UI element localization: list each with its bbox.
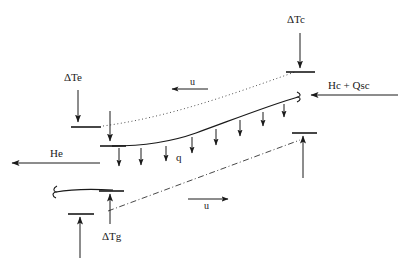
diagram-drawing (0, 0, 406, 269)
upper-dotted-curve (103, 72, 295, 126)
label-delta-tc: ΔTc (287, 14, 305, 25)
main-curve-end-bracket (297, 92, 300, 102)
label-u-upper: u (190, 77, 195, 87)
bottom-curve-start-bracket (53, 186, 57, 198)
main-solid-curve (112, 97, 298, 146)
label-he: He (50, 148, 63, 159)
label-u-lower: u (204, 201, 209, 211)
figure-canvas: ΔTc ΔTe ΔTg Hc + Qsc He q u u (0, 0, 406, 269)
label-delta-tg: ΔTg (102, 231, 121, 242)
label-q: q (176, 152, 182, 163)
label-hc-qsc: Hc + Qsc (328, 80, 370, 91)
label-delta-te: ΔTe (64, 72, 82, 83)
q-load-arrows (119, 104, 284, 166)
